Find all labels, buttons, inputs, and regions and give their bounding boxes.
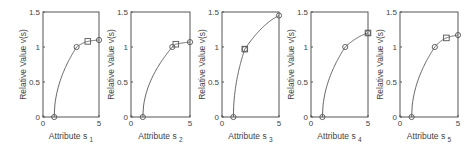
chart-panel-4: 00.511.505Attribute s 4Relative Value v(…: [286, 8, 371, 143]
axes-box: [400, 12, 458, 117]
x-tick-label: 0: [309, 119, 314, 128]
x-tick-label: 0: [398, 119, 403, 128]
y-tick-label: 1.5: [29, 8, 41, 17]
chart-panel-3: 00.511.505Attribute s 3Relative Value v(…: [197, 8, 282, 143]
axes-box: [222, 12, 279, 117]
x-axis-label: Attribute s 2: [138, 131, 183, 143]
y-tick-label: 1.5: [208, 8, 220, 17]
x-axis-label: Attribute s 1: [49, 131, 94, 143]
y-axis-label: Relative Value v(s): [18, 29, 28, 100]
chart-panel-1: 00.511.505Attribute s 1Relative Value v(…: [18, 8, 102, 143]
y-tick-label: 1.5: [386, 8, 398, 17]
y-axis-label: Relative Value v(s): [375, 29, 385, 100]
axes-box: [311, 12, 368, 117]
x-tick-label: 0: [220, 119, 225, 128]
value-curve: [143, 42, 190, 117]
y-tick-label: 0.5: [117, 78, 129, 87]
y-tick-label: 1: [393, 43, 398, 52]
x-tick-label: 5: [456, 119, 461, 128]
y-axis-label: Relative Value v(s): [286, 29, 296, 100]
y-tick-label: 1.5: [297, 8, 309, 17]
chart-panel-5: 00.511.505Attribute s 5Relative Value v(…: [375, 8, 461, 143]
y-axis-label: Relative Value v(s): [106, 29, 116, 100]
y-tick-label: 0.5: [386, 78, 398, 87]
x-tick-label: 0: [129, 119, 134, 128]
value-curve: [412, 35, 458, 117]
x-axis-label: Attribute s 4: [317, 131, 362, 143]
x-axis-label: Attribute s 5: [407, 131, 452, 143]
y-tick-label: 1: [215, 43, 220, 52]
x-tick-label: 5: [188, 119, 193, 128]
axes-box: [43, 12, 99, 117]
axes-box: [131, 12, 190, 117]
y-tick-label: 1: [304, 43, 309, 52]
y-axis-label: Relative Value v(s): [197, 29, 207, 100]
value-curve: [233, 16, 279, 118]
chart-panel-2: 00.511.505Attribute s 2Relative Value v(…: [106, 8, 193, 143]
x-tick-label: 5: [277, 119, 282, 128]
value-function-charts: 00.511.505Attribute s 1Relative Value v(…: [0, 0, 474, 152]
x-tick-label: 5: [97, 119, 102, 128]
value-curve: [54, 40, 99, 117]
y-tick-label: 1.5: [117, 8, 129, 17]
value-curve: [322, 33, 368, 117]
x-tick-label: 5: [366, 119, 371, 128]
y-tick-label: 1: [124, 43, 129, 52]
y-tick-label: 0.5: [208, 78, 220, 87]
x-tick-label: 0: [41, 119, 46, 128]
x-axis-label: Attribute s 3: [228, 131, 273, 143]
y-tick-label: 0.5: [29, 78, 41, 87]
y-tick-label: 1: [36, 43, 41, 52]
y-tick-label: 0.5: [297, 78, 309, 87]
